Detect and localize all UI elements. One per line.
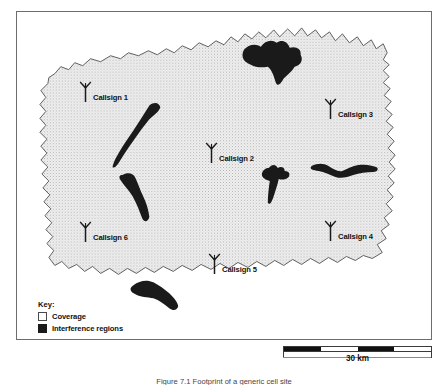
site-marker[interactable]: Callsign 1 <box>79 81 128 103</box>
site-label: Callsign 6 <box>92 233 128 242</box>
scale-segment <box>284 347 321 351</box>
legend-item-label: Coverage <box>52 312 86 321</box>
figure-container: Callsign 1 Callsign 3 Callsign 2 <box>0 0 448 385</box>
scale-bar: 30 km <box>283 346 432 359</box>
site-marker[interactable]: Callsign 3 <box>324 98 373 120</box>
scale-segment <box>358 347 395 351</box>
legend-item-label: Interference regions <box>52 324 123 333</box>
antenna-icon <box>79 81 92 103</box>
scale-label: 30 km <box>283 354 432 363</box>
antenna-icon <box>208 253 221 275</box>
scale-segment <box>394 347 431 351</box>
map-frame: Callsign 1 Callsign 3 Callsign 2 <box>16 11 432 340</box>
site-label: Callsign 4 <box>337 232 373 241</box>
antenna-icon <box>324 98 337 120</box>
site-label: Callsign 5 <box>221 265 257 274</box>
map-legend: Key: Coverage Interference regions <box>38 300 123 333</box>
scale-segment <box>321 347 358 351</box>
site-marker[interactable]: Callsign 5 <box>208 253 257 275</box>
site-label: Callsign 1 <box>92 93 128 102</box>
site-marker[interactable]: Callsign 4 <box>324 220 373 242</box>
site-marker[interactable]: Callsign 2 <box>205 142 254 164</box>
interference-swatch <box>38 324 47 333</box>
legend-item-coverage: Coverage <box>38 312 123 321</box>
interference-region <box>131 281 179 310</box>
legend-title: Key: <box>38 300 123 309</box>
antenna-icon <box>324 220 337 242</box>
antenna-icon <box>79 221 92 243</box>
legend-item-interference: Interference regions <box>38 324 123 333</box>
coverage-map <box>17 12 431 339</box>
figure-caption: Figure 7.1 Footprint of a generic cell s… <box>0 377 448 385</box>
site-marker[interactable]: Callsign 6 <box>79 221 128 243</box>
site-label: Callsign 2 <box>218 154 254 163</box>
site-label: Callsign 3 <box>337 110 373 119</box>
coverage-swatch <box>38 312 47 321</box>
antenna-icon <box>205 142 218 164</box>
